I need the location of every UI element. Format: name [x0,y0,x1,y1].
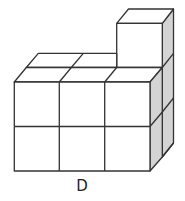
cube-figure [0,0,185,201]
tall-cube-front-face [117,23,163,67]
figure-label: D [74,177,90,195]
top-face-front [14,68,162,83]
top-face-back [26,53,116,67]
tall-column-right-face [162,9,173,157]
